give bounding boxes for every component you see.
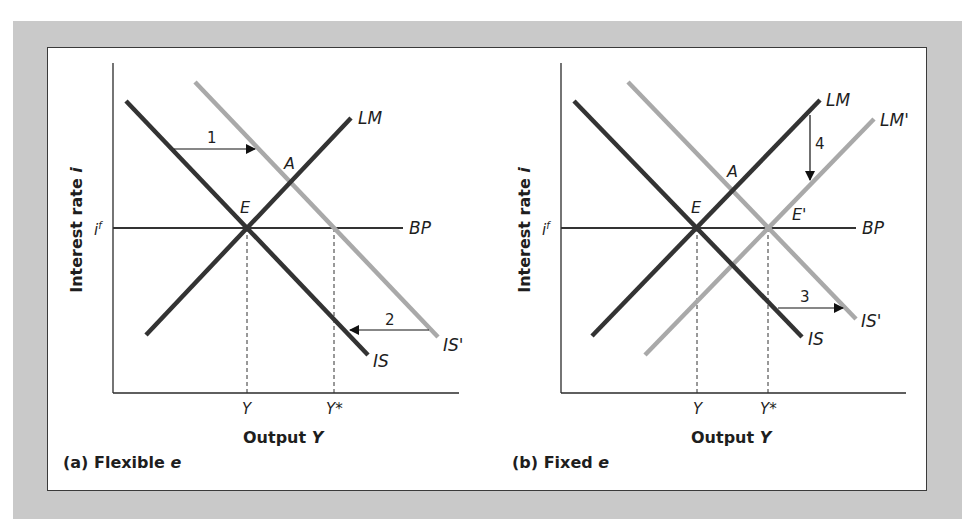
panel-b-arrow-3-label: 3 — [800, 288, 810, 306]
panel-a-arrow-2-label: 2 — [385, 311, 395, 329]
panel-b-y-axis-title: Interest rate i — [515, 167, 534, 293]
panel-a-arrow-1-label: 1 — [207, 129, 217, 147]
panel-b-point-a: A — [726, 162, 738, 181]
panel-b-x-tick-y: Y — [693, 400, 704, 418]
panel-b-fixed-exchange-rate: 4 3 LM LM' BP IS IS' A E E' if Y Y* Outp… — [512, 63, 909, 472]
panel-b-point-e-prime: E' — [792, 205, 807, 224]
panel-a-x-axis-title: Output Y — [243, 428, 325, 447]
panel-b-point-e: E — [691, 198, 702, 217]
panel-a-y-tick-if: if — [94, 220, 103, 239]
panel-a-flexible-exchange-rate: 1 2 LM BP IS IS' A E if Y Y* Output Y In… — [63, 63, 463, 472]
panel-a-lm-label: LM — [358, 108, 382, 128]
panel-b-is-curve — [574, 101, 802, 337]
panel-a-is-prime-label: IS' — [443, 335, 463, 355]
panel-b-is-prime-curve — [628, 82, 856, 319]
panel-a-bp-label: BP — [409, 218, 432, 238]
panel-a-point-e: E — [240, 198, 251, 217]
panel-b-lm-label: LM — [826, 90, 850, 110]
panel-a-y-axis-title: Interest rate i — [67, 167, 86, 293]
panel-a-x-tick-y: Y — [242, 400, 253, 418]
is-lm-bp-figure: 1 2 LM BP IS IS' A E if Y Y* Output Y In… — [0, 0, 962, 519]
panel-b-lm-prime-curve — [645, 119, 874, 355]
panel-a-point-a: A — [283, 154, 295, 173]
panel-a-caption: (a) Flexible e — [63, 453, 181, 472]
panel-b-bp-label: BP — [862, 218, 885, 238]
panel-b-x-axis-title: Output Y — [691, 428, 773, 447]
panel-a-x-tick-ystar: Y* — [326, 400, 343, 418]
panel-b-is-label: IS — [808, 329, 824, 349]
panel-b-arrow-4-label: 4 — [815, 135, 825, 153]
panel-b-caption: (b) Fixed e — [512, 453, 609, 472]
panel-b-is-prime-label: IS' — [861, 311, 881, 331]
panel-b-lm-prime-label: LM' — [880, 110, 909, 130]
panel-a-is-label: IS — [373, 351, 389, 371]
panel-b-y-tick-if: if — [542, 220, 551, 239]
panel-b-lm-curve — [592, 100, 820, 336]
panel-b-x-tick-ystar: Y* — [760, 400, 777, 418]
